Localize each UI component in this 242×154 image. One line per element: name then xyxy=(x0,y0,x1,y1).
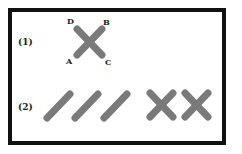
crossed-sticks-row1 xyxy=(77,29,102,55)
sticks-illustration xyxy=(0,0,242,154)
single-sticks-row2 xyxy=(47,94,127,118)
crossed-pairs-row2 xyxy=(150,93,208,117)
